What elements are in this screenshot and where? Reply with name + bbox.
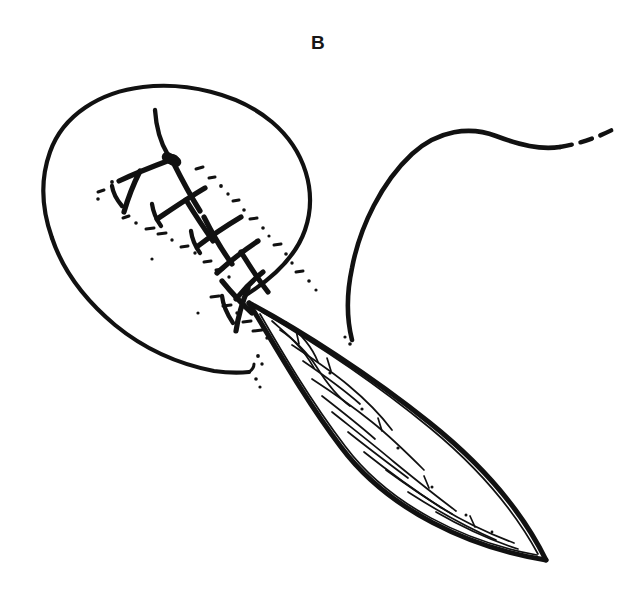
suture-thread-tail — [343, 130, 612, 346]
surgical-illustration — [0, 0, 636, 613]
excised-tissue-specimen — [249, 303, 546, 560]
running-suture-line — [112, 110, 268, 331]
figure-root: B — [0, 0, 636, 613]
